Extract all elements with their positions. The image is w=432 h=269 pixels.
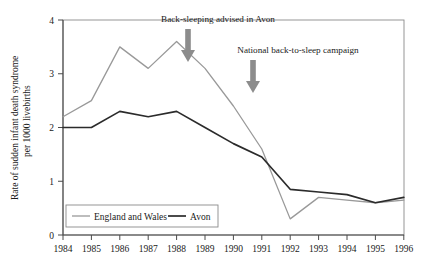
x-tick-label-1995: 1995 bbox=[366, 244, 385, 254]
y-axis-title-line1: Rate of sudden infant death syndrome bbox=[10, 56, 20, 200]
annotation-label-national-campaign: National back-to-sleep campaign bbox=[237, 45, 359, 55]
y-axis: 0 1 2 3 4 bbox=[49, 16, 63, 241]
sids-rate-line-chart: 0 1 2 3 4 Rate of sudden infant death sy… bbox=[0, 0, 432, 269]
x-axis: 1984 1985 1986 1987 1988 1989 1990 1991 … bbox=[54, 235, 414, 254]
annotation-label-back-sleeping-avon: Back-sleeping advised in Avon bbox=[161, 14, 275, 24]
y-tick-label-0: 0 bbox=[49, 231, 54, 241]
chart-canvas: 0 1 2 3 4 Rate of sudden infant death sy… bbox=[0, 0, 432, 269]
x-tick-label-1988: 1988 bbox=[167, 244, 186, 254]
arrow-shaft-1 bbox=[185, 29, 191, 51]
y-tick-group: 0 1 2 3 4 bbox=[49, 16, 63, 241]
y-tick-label-3: 3 bbox=[49, 69, 54, 79]
y-tick-label-2: 2 bbox=[49, 123, 54, 133]
x-tick-label-1994: 1994 bbox=[338, 244, 357, 254]
x-tick-group: 1984 1985 1986 1987 1988 1989 1990 1991 … bbox=[54, 235, 414, 254]
x-tick-label-1991: 1991 bbox=[252, 244, 271, 254]
x-tick-label-1985: 1985 bbox=[82, 244, 101, 254]
arrow-shaft-2 bbox=[250, 60, 256, 82]
x-tick-label-1986: 1986 bbox=[110, 244, 129, 254]
x-tick-label-1989: 1989 bbox=[196, 244, 215, 254]
x-tick-label-1990: 1990 bbox=[224, 244, 243, 254]
y-tick-label-1: 1 bbox=[49, 177, 54, 187]
x-tick-label-1984: 1984 bbox=[54, 244, 73, 254]
legend-label-avon: Avon bbox=[190, 212, 211, 222]
y-axis-title: Rate of sudden infant death syndrome per… bbox=[10, 56, 32, 200]
x-tick-label-1992: 1992 bbox=[281, 244, 300, 254]
legend-label-england-and-wales: England and Wales bbox=[94, 212, 167, 222]
legend: England and Wales Avon bbox=[66, 205, 218, 227]
x-tick-label-1987: 1987 bbox=[139, 244, 158, 254]
x-tick-label-1996: 1996 bbox=[394, 244, 413, 254]
x-tick-label-1993: 1993 bbox=[309, 244, 328, 254]
y-tick-label-4: 4 bbox=[49, 16, 54, 26]
y-axis-title-line2: per 1000 livebirths bbox=[22, 85, 32, 157]
